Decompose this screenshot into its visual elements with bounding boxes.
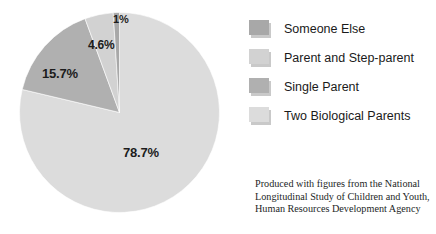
legend-item-single-parent: Single Parent <box>249 75 434 99</box>
legend-swatch-parent-and-step-parent <box>249 49 269 64</box>
caption-line-1: Produced with figures from the National <box>255 178 433 191</box>
legend-item-parent-and-step-parent: Parent and Step-parent <box>249 46 434 70</box>
caption-line-2: Longitudinal Study of Children and Youth… <box>255 191 433 204</box>
pie-chart-figure: 78.7% 15.7% 4.6% 1% Someone Else Parent … <box>0 0 436 234</box>
caption-line-3: Human Resources Development Agency <box>255 203 433 216</box>
legend-swatch-someone-else <box>249 20 269 35</box>
pie-chart-svg <box>0 0 224 234</box>
chart-legend: Someone Else Parent and Step-parent Sing… <box>249 17 434 133</box>
legend-label-single-parent: Single Parent <box>284 80 359 94</box>
chart-source-caption: Produced with figures from the National … <box>255 178 433 216</box>
legend-label-someone-else: Someone Else <box>284 22 365 36</box>
legend-swatch-single-parent <box>249 78 269 93</box>
legend-label-two-biological-parents: Two Biological Parents <box>284 109 410 123</box>
pie-slice-value-parent-and-step-parent: 4.6% <box>88 38 115 52</box>
pie-slice-value-single-parent: 15.7% <box>42 66 78 81</box>
legend-swatch-wrap-single-parent <box>249 78 275 97</box>
legend-swatch-two-biological-parents <box>249 107 269 122</box>
pie-slice-group <box>19 13 219 213</box>
legend-item-two-biological-parents: Two Biological Parents <box>249 104 434 128</box>
pie-slice-value-two-biological-parents: 78.7% <box>123 145 159 160</box>
legend-swatch-wrap-parent-and-step-parent <box>249 49 275 68</box>
pie-slice-value-someone-else: 1% <box>113 13 129 25</box>
legend-label-parent-and-step-parent: Parent and Step-parent <box>284 51 414 65</box>
legend-item-someone-else: Someone Else <box>249 17 434 41</box>
legend-swatch-wrap-someone-else <box>249 20 275 39</box>
pie-chart: 78.7% 15.7% 4.6% 1% <box>0 0 224 234</box>
legend-swatch-wrap-two-biological-parents <box>249 107 275 126</box>
